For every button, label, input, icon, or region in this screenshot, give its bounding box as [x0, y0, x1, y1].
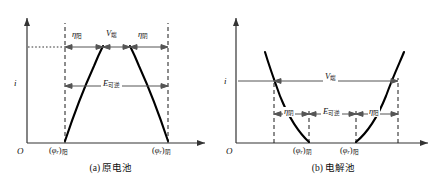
panel-b-graphic [222, 0, 445, 183]
caption-panel-b: (b) 电解池 [222, 160, 445, 174]
x-tick-right-a: (φr)阴 [152, 146, 171, 156]
x-tick-left-a: (φr)阳 [49, 146, 68, 156]
caption-panel-a: (a) 原电池 [0, 160, 222, 174]
polarization-curves-a [65, 46, 168, 141]
panel-electrolytic-cell: i O V端 η阴 E可逆 η阳 (φr)阴 (φr)阳 (b) 电解池 [222, 0, 445, 183]
axes-b [233, 18, 428, 146]
top-arrow-row-a [65, 45, 168, 50]
eta-anode-label-a: η阳 [72, 30, 82, 40]
reversible-emf-label-a: E可逆 [101, 79, 122, 89]
terminal-voltage-label-b: V端 [323, 72, 338, 82]
y-axis-label-a: i [14, 78, 17, 88]
polarization-curves-figure: i O η阳 V端 η阴 E可逆 (φr)阳 (φr)阴 (a) 原电池 [0, 0, 445, 183]
terminal-voltage-label-a: V端 [106, 29, 117, 39]
origin-label-b: O [226, 146, 233, 156]
reversible-emf-label-b: E可逆 [321, 107, 342, 117]
origin-label-a: O [17, 146, 24, 156]
x-tick-left-b: (φr)阴 [293, 146, 312, 156]
panel-galvanic-cell: i O η阳 V端 η阴 E可逆 (φr)阳 (φr)阴 (a) 原电池 [0, 0, 222, 183]
eta-anode-label-b: η阳 [368, 107, 380, 117]
eta-cathode-label-a: η阴 [138, 30, 148, 40]
eta-cathode-label-b: η阴 [283, 107, 295, 117]
terminal-voltage-arrow-b [238, 79, 398, 84]
y-axis-label-b: i [224, 76, 227, 86]
polarization-curves-b [265, 52, 404, 142]
x-tick-right-b: (φr)阳 [340, 146, 359, 156]
